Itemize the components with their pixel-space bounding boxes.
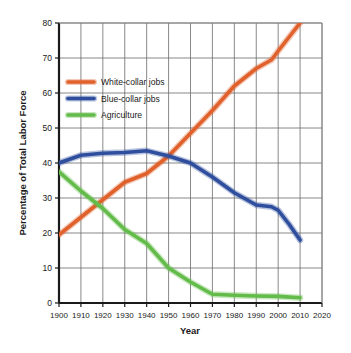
legend-label-white-collar-jobs: White-collar jobs [101, 77, 165, 87]
chart-canvas: 80706050403020100 1900191019201930194019… [0, 0, 351, 353]
legend-label-blue-collar-jobs: Blue-collar jobs [101, 94, 160, 104]
x-tick-label: 2020 [313, 311, 331, 320]
x-tick-label: 1930 [116, 311, 134, 320]
x-tick-label: 1920 [94, 311, 112, 320]
x-tick-label: 1950 [160, 311, 178, 320]
y-tick-label: 40 [43, 158, 53, 168]
y-axis-title: Percentage of Total Labor Force [17, 91, 28, 236]
x-tick-label: 1900 [50, 311, 68, 320]
x-tick-label: 2000 [269, 311, 287, 320]
x-tick-label: 1960 [182, 311, 200, 320]
y-tick-label: 50 [43, 123, 53, 133]
y-tick-label: 30 [43, 193, 53, 203]
x-tick-label: 1970 [204, 311, 222, 320]
x-tick-label: 1940 [138, 311, 156, 320]
x-axis-title: Year [180, 325, 200, 336]
legend-label-agriculture: Agriculture [101, 110, 142, 120]
y-tick-label: 20 [43, 228, 53, 238]
x-tick-label: 1990 [247, 311, 265, 320]
x-tick-label: 1980 [225, 311, 243, 320]
y-tick-label: 0 [47, 298, 52, 308]
x-tick-label: 2010 [291, 311, 309, 320]
x-tick-label: 1910 [72, 311, 90, 320]
y-tick-label: 60 [43, 88, 53, 98]
y-tick-label: 80 [43, 18, 53, 28]
line-chart: 80706050403020100 1900191019201930194019… [0, 0, 351, 353]
y-tick-label: 10 [43, 263, 53, 273]
y-tick-label: 70 [43, 53, 53, 63]
y-tick-labels: 80706050403020100 [43, 18, 53, 308]
